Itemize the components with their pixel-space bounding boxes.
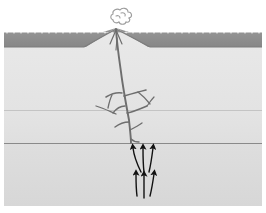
middle-crust-layer [4, 110, 262, 143]
cross-section-canvas [0, 0, 266, 213]
volcanic-cross-section-figure [0, 0, 266, 213]
lower-crust-layer [4, 143, 262, 206]
